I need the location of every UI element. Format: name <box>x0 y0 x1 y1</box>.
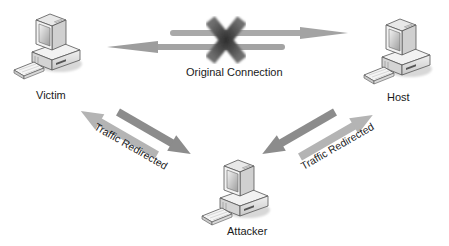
original-connection-arrows <box>107 20 348 60</box>
host-label: Host <box>387 91 410 103</box>
x-icon <box>210 20 242 60</box>
diagram-canvas <box>0 0 449 246</box>
attacker-label: Attacker <box>227 225 267 237</box>
victim-label: Victim <box>36 89 66 101</box>
attacker-computer-icon <box>202 160 270 225</box>
host-computer-icon <box>364 19 432 84</box>
arrow-right-icon <box>170 27 348 39</box>
arrow-left-icon <box>107 41 285 53</box>
original-connection-label: Original Connection <box>186 66 283 78</box>
victim-computer-icon <box>14 14 82 79</box>
